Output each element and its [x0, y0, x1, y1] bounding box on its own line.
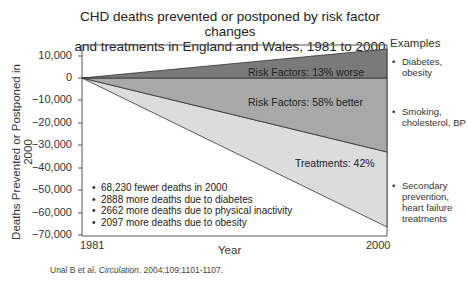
example-item: •Secondary prevention, heart failure tre… — [392, 180, 468, 224]
y-tick: −30,000 — [14, 138, 72, 150]
annotation-item: 2888 more deaths due to diabetes — [92, 194, 292, 206]
y-tick: 0 — [14, 71, 72, 83]
y-tick: −50,000 — [14, 183, 72, 195]
y-tick: −10,000 — [14, 93, 72, 105]
annotation-item: 2097 more deaths due to obesity — [92, 217, 292, 229]
annotation-item: 2662 more deaths due to physical inactiv… — [92, 205, 292, 217]
x-tick: 1981 — [80, 239, 104, 251]
annotation-list: 68,230 fewer deaths in 2000 2888 more de… — [92, 182, 292, 228]
x-tick: 2000 — [366, 239, 390, 251]
label-treatments: Treatments: 42% — [295, 157, 375, 169]
examples-heading: Examples — [390, 37, 441, 49]
x-axis-label: Year — [218, 244, 241, 256]
y-tick: −40,000 — [14, 161, 72, 173]
y-tick: −60,000 — [14, 206, 72, 218]
y-tick: 10,000 — [14, 49, 72, 61]
annotation-item: 68,230 fewer deaths in 2000 — [92, 182, 292, 194]
y-tick: −20,000 — [14, 116, 72, 128]
example-item: •Smoking, cholesterol, BP — [392, 106, 468, 128]
citation: Unal B et al. Circulation. 2004;109:1101… — [50, 265, 223, 275]
example-item: •Diabetes, obesity — [392, 56, 468, 78]
label-risk-better: Risk Factors: 58% better — [248, 96, 363, 108]
y-tick: −70,000 — [14, 228, 72, 240]
label-risk-worse: Risk Factors: 13% worse — [248, 66, 364, 78]
